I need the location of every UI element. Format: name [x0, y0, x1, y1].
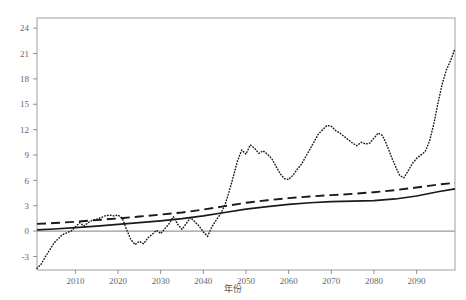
x-tick-label-2080: 2080	[365, 276, 384, 286]
y-tick-label-21: 21	[20, 49, 29, 59]
x-tick-label-2010: 2010	[66, 276, 85, 286]
y-tick-label--3: -3	[22, 252, 30, 262]
y-axis-ticks: -303691215182124	[20, 23, 37, 261]
plot-area-border	[37, 18, 455, 270]
y-tick-label-6: 6	[25, 176, 30, 186]
x-tick-label-2030: 2030	[152, 276, 171, 286]
x-tick-label-2070: 2070	[322, 276, 341, 286]
x-tick-label-2020: 2020	[109, 276, 128, 286]
y-tick-label-0: 0	[25, 226, 30, 236]
x-tick-label-2060: 2060	[280, 276, 299, 286]
y-tick-label-15: 15	[20, 99, 30, 109]
x-tick-label-2040: 2040	[194, 276, 213, 286]
line-chart: -303691215182124 20102020203020402050206…	[0, 0, 466, 300]
plot-frame	[37, 18, 455, 270]
y-tick-label-24: 24	[20, 23, 30, 33]
x-tick-label-2090: 2090	[408, 276, 427, 286]
x-axis-label: 年份	[224, 283, 242, 294]
x-axis-ticks: 201020202030204020502060207020802090	[66, 270, 426, 286]
y-tick-label-18: 18	[20, 74, 30, 84]
chart-root: -303691215182124 20102020203020402050206…	[0, 0, 466, 300]
y-tick-label-9: 9	[25, 150, 30, 160]
y-tick-label-3: 3	[25, 201, 30, 211]
y-tick-label-12: 12	[20, 125, 29, 135]
